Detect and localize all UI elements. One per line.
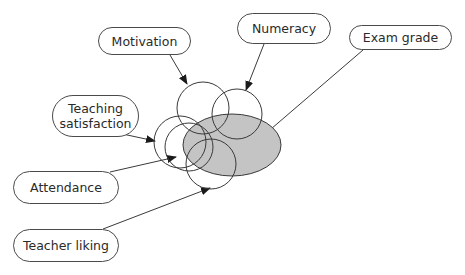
numeracy-label-text: Numeracy [252,21,316,36]
attendance-label: Attendance [13,171,119,204]
numeracy-arrow [246,44,264,90]
teaching-satisfaction-line1: Teaching [68,101,123,116]
teacher-liking-arrow [103,188,210,229]
numeracy-label: Numeracy [237,13,331,44]
exam-grade-arrow [264,50,363,135]
teacher-liking-label: Teacher liking [13,229,119,262]
teaching-satisfaction-label-text: Teaching satisfaction [60,101,132,131]
teacher-liking-label-text: Teacher liking [23,238,109,253]
attendance-label-text: Attendance [30,180,102,195]
motivation-arrow [170,55,187,84]
teaching-satisfaction-line2: satisfaction [60,116,132,131]
motivation-label-text: Motivation [112,34,178,49]
exam-grade-label-text: Exam grade [363,30,438,45]
exam-grade-label: Exam grade [349,25,452,50]
motivation-label: Motivation [98,27,191,55]
teaching-satisfaction-label: Teaching satisfaction [52,95,139,137]
